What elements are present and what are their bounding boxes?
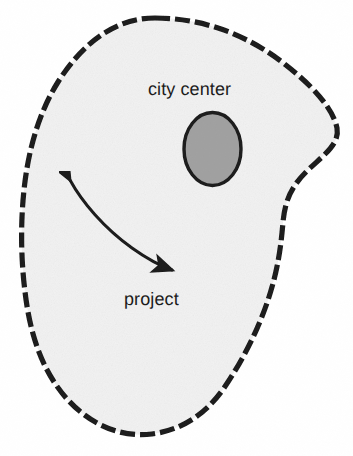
label-project: project: [124, 290, 179, 308]
city-boundary-region: [0, 0, 353, 456]
diagram-canvas: city center project: [0, 0, 353, 456]
region-grain: [0, 0, 353, 456]
label-city-center: city center: [148, 80, 231, 98]
city-center-ellipse: [184, 113, 241, 186]
city-center-zone: [184, 113, 241, 186]
schematic-map-svg: [0, 0, 353, 456]
